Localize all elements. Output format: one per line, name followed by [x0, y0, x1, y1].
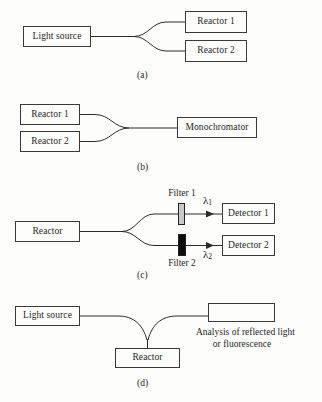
line-c-branch-upper	[122, 214, 178, 232]
panel-c-filter-2-label: Filter 2	[161, 258, 203, 269]
panel-d-analysis-caption-line-2: or fluorescence	[196, 339, 288, 351]
panel-c-detector-1-box[interactable]: Detector 1	[222, 203, 275, 224]
line-d-source-to-junction	[80, 316, 147, 340]
panel-a-reactor-2-box[interactable]: Reactor 2	[185, 40, 247, 62]
panel-d-analysis-caption-line-1: Analysis of reflected light	[196, 327, 288, 339]
panel-b-reactor-1-label: Reactor 1	[31, 110, 69, 120]
panel-d-reactor-box[interactable]: Reactor	[115, 348, 180, 368]
panel-c-filter-1[interactable]	[178, 203, 185, 225]
panel-b-caption: (b)	[137, 162, 148, 172]
panel-d-reactor-label: Reactor	[132, 353, 162, 363]
panel-a-reactor-1-box[interactable]: Reactor 1	[185, 11, 247, 33]
lambda-2-subscript: 2	[208, 252, 212, 261]
panel-b-monochromator-box[interactable]: Monochromator	[177, 117, 257, 138]
panel-a-caption: (a)	[137, 70, 148, 80]
line-c-branch-lower	[122, 232, 178, 246]
panel-b-reactor-2-label: Reactor 2	[31, 137, 69, 147]
arrow-head-lambda-1	[206, 211, 214, 218]
line-a-branch-upper	[134, 22, 185, 37]
line-a-branch-lower	[134, 37, 185, 52]
panel-d-analysis-box[interactable]	[208, 303, 275, 322]
line-b-branch-lower	[80, 128, 129, 142]
panel-d-light-source-box[interactable]: Light source	[15, 306, 80, 326]
lambda-1-subscript: 1	[208, 198, 212, 207]
panel-c-detector-2-box[interactable]: Detector 2	[222, 235, 275, 256]
panel-c-detector-1-label: Detector 1	[228, 209, 269, 219]
panel-c-reactor-box[interactable]: Reactor	[15, 221, 80, 242]
panel-c-detector-2-label: Detector 2	[228, 241, 269, 251]
panel-d-analysis-caption: Analysis of reflected light or fluoresce…	[196, 327, 288, 351]
panel-d-light-source-label: Light source	[23, 311, 72, 321]
panel-c-caption: (c)	[137, 270, 148, 280]
panel-d-caption: (d)	[137, 378, 148, 388]
line-b-branch-upper	[80, 115, 129, 129]
figure-root: Light source Reactor 1 Reactor 2 (a) Rea…	[0, 0, 322, 402]
panel-c-filter-1-label: Filter 1	[161, 188, 203, 199]
panel-a-reactor-2-label: Reactor 2	[197, 46, 235, 56]
panel-a-reactor-1-label: Reactor 1	[197, 17, 235, 27]
panel-b-monochromator-label: Monochromator	[185, 123, 248, 133]
panel-a-light-source-box[interactable]: Light source	[23, 26, 91, 47]
lambda-2-label: λ2	[203, 248, 212, 261]
panel-b-reactor-1-box[interactable]: Reactor 1	[20, 104, 80, 125]
panel-c-reactor-label: Reactor	[32, 227, 62, 237]
lambda-1-label: λ1	[203, 194, 212, 207]
panel-c-filter-2[interactable]	[178, 234, 186, 256]
panel-b-reactor-2-box[interactable]: Reactor 2	[20, 131, 80, 152]
panel-a-light-source-label: Light source	[33, 32, 82, 42]
